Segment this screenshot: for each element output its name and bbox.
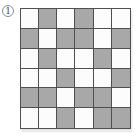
grid-cell [94,9,112,29]
grid-cell [75,9,93,29]
grid-cell [39,88,57,108]
grid-cell [75,29,93,49]
grid-cell [94,69,112,89]
grid-cell [57,9,75,29]
option-number-badge: 1 [2,5,14,17]
grid-cell [21,9,39,29]
grid-cell [39,29,57,49]
grid-cell [21,69,39,89]
grid-cell [57,49,75,69]
grid-cell [94,108,112,128]
grid-cell [112,69,130,89]
pattern-grid [20,8,131,129]
grid-cell [57,29,75,49]
grid-cell [39,108,57,128]
grid-cell [21,108,39,128]
grid-cell [94,29,112,49]
grid-cell [39,69,57,89]
grid-cell [57,108,75,128]
grid-cell [57,88,75,108]
grid-cell [75,88,93,108]
grid-cell [75,69,93,89]
grid-cell [112,29,130,49]
grid-cell [112,49,130,69]
grid-cell [57,69,75,89]
grid-cell [39,49,57,69]
grid-cell [112,88,130,108]
option-number-text: 1 [5,7,11,16]
grid-cell [21,49,39,69]
grid-cell [21,88,39,108]
grid-cell [112,9,130,29]
grid-cell [112,108,130,128]
grid-cell [21,29,39,49]
grid-cell [39,9,57,29]
grid-cell [94,49,112,69]
grid-cell [94,88,112,108]
grid-cell [75,49,93,69]
grid-cell [75,108,93,128]
